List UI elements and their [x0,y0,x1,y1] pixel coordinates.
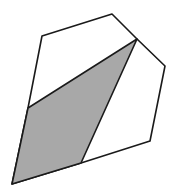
diagram-canvas [0,0,177,195]
